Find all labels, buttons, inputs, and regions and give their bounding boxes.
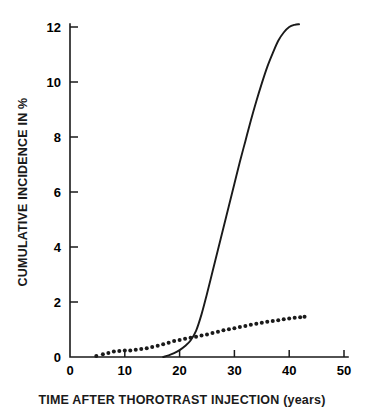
axis-lines: [70, 24, 348, 357]
dotted-data-point: [101, 352, 105, 356]
dotted-data-point: [106, 351, 110, 355]
x-tick-label-20: 20: [172, 363, 186, 378]
x-tick-label-30: 30: [227, 363, 241, 378]
dotted-data-point: [216, 330, 220, 334]
chart-figure: 01020304050 024681012 TIME AFTER THOROTR…: [0, 0, 365, 417]
dotted-data-point: [128, 348, 132, 352]
y-tick-label-6: 6: [54, 185, 61, 200]
dotted-data-point: [172, 339, 176, 343]
cumulative-incidence-chart: 01020304050 024681012 TIME AFTER THOROTR…: [0, 0, 365, 417]
dotted-data-point: [139, 347, 143, 351]
x-tick-label-50: 50: [337, 363, 351, 378]
y-tick-label-2: 2: [54, 295, 61, 310]
x-axis-ticks: [125, 350, 344, 357]
dotted-data-point: [282, 317, 286, 321]
dotted-data-point: [189, 336, 193, 340]
dotted-data-point: [200, 334, 204, 338]
dotted-data-point: [178, 338, 182, 342]
dotted-data-point: [210, 331, 214, 335]
dotted-data-point: [221, 328, 225, 332]
axes-group: [70, 24, 348, 357]
dotted-data-point: [117, 349, 121, 353]
x-tick-label-10: 10: [118, 363, 132, 378]
dotted-data-point: [227, 327, 231, 331]
dotted-data-point: [265, 320, 269, 324]
dotted-data-point: [134, 348, 138, 352]
y-tick-label-4: 4: [54, 240, 62, 255]
x-tick-label-40: 40: [282, 363, 296, 378]
dotted-data-point: [293, 316, 297, 320]
y-tick-label-8: 8: [54, 130, 61, 145]
dotted-curve-series: [94, 315, 306, 358]
dotted-data-point: [303, 315, 307, 319]
y-tick-label-12: 12: [47, 20, 61, 35]
dotted-data-point: [238, 325, 242, 329]
y-axis-title: CUMULATIVE INCIDENCE IN %: [16, 98, 30, 287]
dotted-data-point: [112, 350, 116, 354]
dotted-data-point: [276, 318, 280, 322]
dotted-data-point: [232, 326, 236, 330]
dotted-data-point: [145, 346, 149, 350]
y-tick-label-10: 10: [47, 75, 61, 90]
dotted-data-point: [94, 354, 98, 358]
series-group: [94, 24, 306, 358]
dotted-data-point: [260, 321, 264, 325]
dotted-data-point: [298, 315, 302, 319]
dotted-data-point: [254, 322, 258, 326]
y-axis-tick-labels: 024681012: [47, 20, 62, 365]
dotted-data-point: [205, 332, 209, 336]
x-axis-title: TIME AFTER THOROTRAST INJECTION (years): [38, 393, 325, 407]
dotted-data-point: [249, 323, 253, 327]
dotted-data-point: [243, 324, 247, 328]
dotted-data-point: [161, 342, 165, 346]
x-tick-label-0: 0: [66, 363, 73, 378]
solid-curve-series: [163, 24, 299, 357]
x-axis-tick-labels: 01020304050: [66, 363, 351, 378]
y-tick-label-0: 0: [54, 350, 61, 365]
dotted-data-point: [150, 345, 154, 349]
dotted-data-point: [123, 348, 127, 352]
dotted-data-point: [167, 341, 171, 345]
y-axis-ticks: [70, 27, 78, 302]
dotted-data-point: [194, 335, 198, 339]
dotted-data-point: [287, 317, 291, 321]
dotted-data-point: [271, 319, 275, 323]
dotted-data-point: [183, 337, 187, 341]
dotted-data-point: [156, 344, 160, 348]
